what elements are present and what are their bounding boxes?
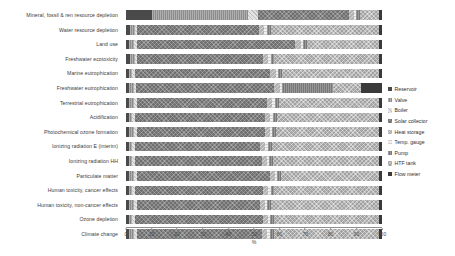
bar-segment — [379, 113, 382, 123]
stacked-bar — [126, 10, 382, 20]
bar-row — [126, 23, 382, 38]
bar-row — [126, 139, 382, 154]
stacked-bar-chart: Mineral, fossil & ren resource depletion… — [0, 0, 455, 256]
legend-swatch-icon — [388, 87, 392, 91]
bar-segment — [307, 40, 379, 50]
legend-item[interactable]: Boiler — [388, 105, 454, 116]
x-tick: 30 — [200, 228, 206, 237]
x-tick: 80 — [328, 228, 334, 237]
bar-segment — [274, 54, 379, 64]
legend-item[interactable]: Heat storage — [388, 126, 454, 137]
x-tick-label: 60 — [277, 231, 283, 237]
stacked-bar — [126, 186, 382, 196]
bar-segment — [379, 142, 382, 152]
y-axis-label: Human toxicity, cancer effects — [0, 183, 122, 198]
bar-segment — [379, 54, 382, 64]
stacked-bar — [126, 113, 382, 123]
y-axis-label: Particulate matter — [0, 169, 122, 184]
bar-segment — [379, 98, 382, 108]
y-axis-label: Water resource depletion — [0, 23, 122, 38]
bar-segment — [281, 171, 379, 181]
bar-row — [126, 125, 382, 140]
y-axis-label: Ionizing radiation E (interim) — [0, 139, 122, 154]
bar-segment — [137, 200, 260, 210]
bar-segment — [136, 83, 274, 93]
bar-row — [126, 66, 382, 81]
legend-label: Reservoir — [395, 86, 417, 92]
bar-segment — [274, 186, 379, 196]
stacked-bar — [126, 171, 382, 181]
bar-segment — [273, 156, 379, 166]
bar-segment — [135, 69, 271, 79]
legend-label: Valve — [395, 97, 408, 103]
legend-swatch-icon — [388, 161, 392, 165]
bar-segment — [271, 25, 380, 35]
legend-label: Pump — [395, 150, 409, 156]
bar-segment — [271, 200, 380, 210]
legend-item[interactable]: Pump — [388, 148, 454, 159]
bar-row — [126, 198, 382, 213]
bar-segment — [258, 10, 349, 20]
stacked-bar — [126, 40, 382, 50]
bar-segment — [361, 83, 381, 93]
bar-row — [126, 81, 382, 96]
bar-segment — [248, 10, 258, 20]
legend-item[interactable]: Valve — [388, 95, 454, 106]
bar-segment — [137, 54, 262, 64]
legend-item[interactable]: Solar collector — [388, 116, 454, 127]
bar-segment — [379, 40, 382, 50]
legend-item[interactable]: Flow meter — [388, 169, 454, 180]
legend-swatch-icon — [388, 130, 392, 134]
bar-segment — [277, 113, 380, 123]
y-axis-label: Ozone depletion — [0, 212, 122, 227]
bar-segment — [379, 156, 382, 166]
bar-segment — [274, 215, 379, 225]
x-tick-label: 70 — [302, 231, 308, 237]
x-tick-mark — [279, 228, 280, 230]
legend-item[interactable]: Reservoir — [388, 84, 454, 95]
x-tick-mark — [228, 228, 229, 230]
x-tick-mark — [254, 228, 255, 230]
bar-row — [126, 96, 382, 111]
stacked-bar — [126, 156, 382, 166]
legend-item[interactable]: Temp. gauge — [388, 137, 454, 148]
x-tick-label: 30 — [200, 231, 206, 237]
x-tick-label: 50 — [251, 231, 257, 237]
x-tick: 20 — [174, 228, 180, 237]
bar-segment — [379, 10, 382, 20]
bar-row — [126, 110, 382, 125]
bar-row — [126, 183, 382, 198]
bar-segment — [135, 142, 261, 152]
legend-label: Boiler — [395, 107, 408, 113]
bar-segment — [135, 186, 263, 196]
legend-item[interactable]: HTF tank — [388, 158, 454, 169]
x-tick: 0 — [125, 228, 128, 237]
stacked-bar — [126, 142, 382, 152]
x-tick: 50 — [251, 228, 257, 237]
stacked-bar — [126, 200, 382, 210]
y-axis-label: Freshwater ecotoxicity — [0, 52, 122, 67]
x-tick-mark — [202, 228, 203, 230]
x-tick-label: 20 — [174, 231, 180, 237]
bar-segment — [379, 69, 382, 79]
stacked-bar — [126, 54, 382, 64]
bar-segment — [137, 98, 268, 108]
bar-segment — [276, 127, 379, 137]
y-axis-label: Mineral, fossil & ren resource depletion — [0, 8, 122, 23]
x-tick-mark — [177, 228, 178, 230]
x-tick-label: 10 — [149, 231, 155, 237]
x-tick: 10 — [149, 228, 155, 237]
x-tick-label: 0 — [125, 231, 128, 237]
bar-segment — [135, 113, 266, 123]
bar-segment — [152, 10, 248, 20]
stacked-bar — [126, 215, 382, 225]
bar-segment — [379, 186, 382, 196]
bar-row — [126, 212, 382, 227]
plot-area — [126, 8, 382, 227]
x-tick-mark — [126, 228, 127, 230]
legend-swatch-icon — [388, 140, 392, 144]
bar-segment — [279, 98, 380, 108]
bar-segment — [379, 200, 382, 210]
y-axis-label: Freshwater eutrophication — [0, 81, 122, 96]
x-tick: 70 — [302, 228, 308, 237]
